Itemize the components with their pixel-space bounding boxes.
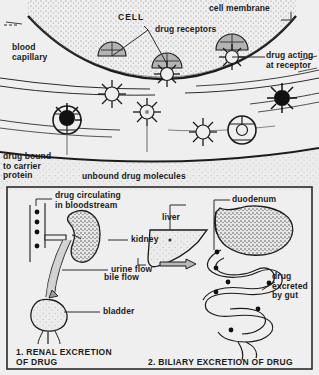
label-bladder: bladder xyxy=(103,307,134,317)
lower-panel-graphics xyxy=(0,0,319,375)
drug-dot-gut-1 xyxy=(215,250,220,255)
stomach-shape xyxy=(215,206,292,255)
label-bile-flow: bile flow xyxy=(104,273,139,283)
diagram-root: DRUG ACTION AND EXCRETION xyxy=(0,0,319,375)
label-drug-circulating: drug circulating in bloodstream xyxy=(55,191,121,210)
label-drug-excreted-by-gut: drug excreted by gut xyxy=(272,272,308,301)
biliary-excretion-figure xyxy=(138,200,293,360)
caption-renal-excretion: 1. RENAL EXCRETION OF DRUG xyxy=(16,347,112,367)
drug-dot-gut-6 xyxy=(256,307,261,312)
kidney-shape xyxy=(68,211,100,262)
drug-dot-gut-7 xyxy=(229,328,234,333)
caption-biliary-excretion: 2. BILIARY EXCRETION OF DRUG xyxy=(148,357,293,367)
drug-dot-gut-3 xyxy=(226,280,231,285)
drug-dot-gut-2 xyxy=(214,266,219,271)
label-liver: liver xyxy=(162,213,180,223)
label-duodenum: duodenum xyxy=(232,195,276,205)
bladder-shape xyxy=(31,299,67,331)
label-kidney: kidney xyxy=(131,235,159,245)
drug-dot-gut-4 xyxy=(214,290,219,295)
